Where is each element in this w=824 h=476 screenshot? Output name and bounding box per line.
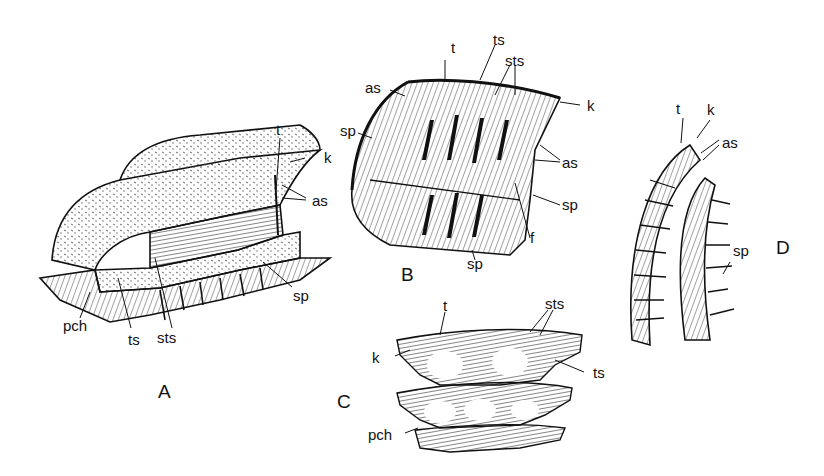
label-d-k: k	[707, 102, 715, 117]
panel-a-drawing	[40, 125, 330, 322]
label-d-as: as	[722, 135, 738, 150]
label-c-t: t	[443, 298, 447, 313]
label-b-as-right: as	[562, 155, 578, 170]
label-c-k: k	[372, 350, 380, 365]
panel-label-b: B	[401, 265, 414, 284]
label-c-sts: sts	[545, 296, 564, 311]
label-b-sp-bottom: sp	[467, 256, 483, 271]
label-b-f: f	[530, 230, 534, 245]
panel-label-c: C	[337, 392, 351, 411]
panel-c-drawing	[397, 330, 582, 452]
label-b-sts: sts	[505, 53, 524, 68]
figure-drawings	[0, 0, 824, 476]
label-b-k: k	[587, 98, 595, 113]
label-d-t: t	[676, 101, 680, 116]
panel-label-a: A	[158, 382, 171, 401]
label-a-k: k	[324, 150, 332, 165]
label-a-t: t	[276, 122, 280, 137]
label-b-ts: ts	[493, 32, 505, 47]
label-a-sts: sts	[157, 330, 176, 345]
panel-label-d: D	[776, 238, 790, 257]
label-a-pch: pch	[63, 318, 87, 333]
label-a-sp: sp	[293, 288, 309, 303]
panel-b-drawing	[352, 80, 560, 255]
label-b-as-top: as	[365, 80, 381, 95]
label-b-t: t	[451, 40, 455, 55]
label-a-as: as	[312, 193, 328, 208]
label-b-sp-left: sp	[340, 123, 356, 138]
label-d-sp: sp	[733, 243, 749, 258]
panel-d-drawing	[631, 145, 734, 345]
label-c-pch: pch	[368, 427, 392, 442]
label-c-ts: ts	[593, 365, 605, 380]
label-b-sp-right: sp	[562, 197, 578, 212]
label-a-ts: ts	[128, 332, 140, 347]
